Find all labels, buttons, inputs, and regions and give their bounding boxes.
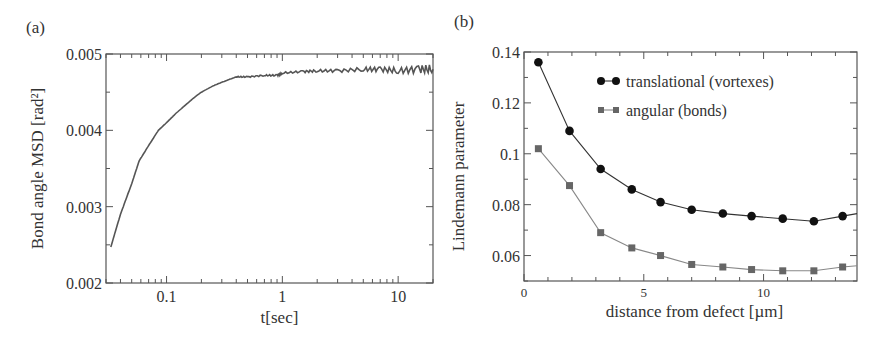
data-point	[719, 209, 728, 218]
y-axis-label: Lindemann parameter	[449, 101, 468, 251]
panel-label-a: (a)	[26, 18, 45, 38]
panel-label-b: (b)	[454, 12, 474, 32]
panel-a-bond-angle-msd: (a) 0.11100.0020.0030.0040.005t[sec]Bond…	[0, 0, 440, 343]
data-point	[628, 185, 637, 194]
data-point	[719, 264, 726, 271]
data-point	[838, 212, 847, 221]
data-point	[566, 182, 573, 189]
legend-square-icon	[613, 107, 619, 113]
data-point	[688, 261, 695, 268]
y-tick-label: 0.06	[492, 248, 520, 265]
x-tick-label: 1	[278, 288, 286, 305]
legend-circle-icon	[597, 77, 605, 85]
legend-square-icon	[598, 107, 604, 113]
lindemann-chart: 05100.060.080.10.120.14distance from def…	[440, 0, 878, 343]
legend-circle-icon	[612, 77, 620, 85]
data-point	[656, 198, 665, 207]
data-point	[810, 267, 817, 274]
msd-curve	[111, 65, 433, 247]
data-point	[810, 217, 819, 226]
y-tick-label: 0.002	[66, 275, 102, 292]
x-ticks	[106, 54, 433, 283]
msd-chart: 0.11100.0020.0030.0040.005t[sec]Bond ang…	[0, 0, 440, 343]
plot-frame	[106, 54, 433, 283]
data-point	[535, 145, 542, 152]
legend: translational (vortexes)angular (bonds)	[597, 73, 774, 120]
panel-b-lindemann: (b) 05100.060.080.10.120.14distance from…	[440, 0, 878, 343]
data-point	[534, 58, 543, 67]
x-axis-label: t[sec]	[261, 308, 299, 327]
data-point	[839, 264, 846, 271]
data-point	[687, 205, 696, 214]
data-point	[628, 244, 635, 251]
y-axis-label: Bond angle MSD [rad²]	[28, 88, 47, 249]
x-tick-label: 5	[641, 285, 648, 300]
data-point	[747, 212, 756, 221]
legend-label: angular (bonds)	[626, 102, 727, 120]
y-tick-label: 0.003	[66, 199, 102, 216]
data-point	[596, 165, 605, 174]
data-point	[597, 229, 604, 236]
x-axis-label: distance from defect [µm]	[606, 302, 783, 321]
x-tick-label: 0.1	[157, 288, 177, 305]
y-tick-label: 0.004	[66, 122, 102, 139]
data-point	[657, 252, 664, 259]
legend-item: angular (bonds)	[598, 102, 727, 120]
data-point	[779, 267, 786, 274]
y-tick-label: 0.005	[66, 46, 102, 63]
y-tick-label: 0.12	[492, 95, 520, 112]
x-tick-label: 10	[757, 285, 770, 300]
y-tick-label: 0.14	[492, 44, 520, 61]
y-tick-label: 0.1	[500, 146, 520, 163]
data-point	[778, 214, 787, 223]
data-point	[565, 127, 574, 136]
legend-label: translational (vortexes)	[626, 73, 774, 91]
y-tick-label: 0.08	[492, 197, 520, 214]
x-tick-label: 10	[390, 288, 406, 305]
x-tick-label: 0	[521, 285, 528, 300]
legend-item: translational (vortexes)	[597, 73, 774, 91]
data-point	[748, 266, 755, 273]
